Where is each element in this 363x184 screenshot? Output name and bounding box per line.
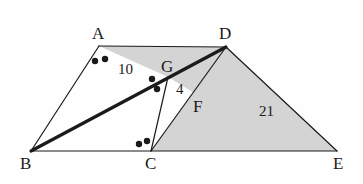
segment-de-length: 21 xyxy=(259,104,274,119)
vertex-label-f: F xyxy=(193,98,202,115)
angle-g-dot-1 xyxy=(149,76,155,82)
edge-ab xyxy=(31,46,99,151)
vertex-label-g: G xyxy=(161,58,173,75)
angle-g-dot-2 xyxy=(154,86,160,92)
vertex-label-a: A xyxy=(92,25,104,42)
geometry-figure: A B C D E F G 10 4 21 xyxy=(0,0,363,184)
vertex-label-e: E xyxy=(333,155,343,172)
angle-c-dot-1 xyxy=(136,141,142,147)
vertex-label-b: B xyxy=(20,155,31,172)
angle-c-dot-2 xyxy=(144,138,150,144)
vertex-label-c: C xyxy=(145,155,156,172)
segment-gf-length: 4 xyxy=(176,82,184,97)
segment-ag-length: 10 xyxy=(118,62,133,77)
angle-a-dot-1 xyxy=(92,58,98,64)
angle-a-dot-2 xyxy=(102,56,108,62)
shaded-regions xyxy=(99,46,337,151)
vertex-label-d: D xyxy=(219,25,231,42)
